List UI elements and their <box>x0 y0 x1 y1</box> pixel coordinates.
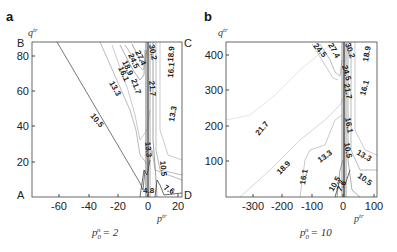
contour-label: 18.9 <box>361 45 373 62</box>
panel-b-xtick: 100 <box>365 200 383 212</box>
panel-a-caption: p0n= 2 <box>91 226 119 241</box>
panel-a-xtick: -40 <box>81 200 97 212</box>
contour-label: 16.1 <box>166 61 176 78</box>
panel-a-ytick: 60 <box>17 85 29 97</box>
contour-label: 16.1 <box>358 79 371 97</box>
panel-a-contour-labels: 30.2 27.4 24.5 18.9 16.1 21.7 13.3 21.7 … <box>88 44 178 197</box>
panel-b-ytick: 300 <box>205 84 223 96</box>
contour-label: 18.9 <box>275 159 293 177</box>
panel-a-ylabel: qtr <box>28 26 38 38</box>
contour-label: 4.8 <box>143 186 155 195</box>
contour-label: 13.3 <box>316 148 334 165</box>
contour-label: 10.5 <box>88 112 105 130</box>
contour-label: 13.3 <box>167 105 179 122</box>
panel-a-xtick: 0 <box>145 200 151 212</box>
contour-label: 24.5 <box>311 42 328 60</box>
contour-label: 21.7 <box>129 78 143 96</box>
panel-b-xtick: -300 <box>242 200 264 212</box>
panel-a-xlabel: ptr <box>156 212 167 224</box>
corner-label-a: A <box>17 189 25 201</box>
panel-a-xtick: -20 <box>110 200 126 212</box>
contour-label: 10.5 <box>356 171 374 188</box>
panel-b-contour-labels: 24.5 27.4 30.2 18.9 24.5 21.7 16.1 21.7 … <box>254 42 375 194</box>
panel-b-caption: p0n= 10 <box>299 226 332 241</box>
panel-b-xlabel: ptr <box>353 212 364 224</box>
panel-a: a qtr 80 60 <box>6 9 192 241</box>
panel-a-label: a <box>6 9 14 24</box>
panel-a-ytick: 20 <box>17 156 29 168</box>
contour-label: 13.3 <box>107 80 123 98</box>
panel-b-xtick: 0 <box>340 200 346 212</box>
contour-label: 10.5 <box>158 160 168 177</box>
panel-a-ytick: 80 <box>17 50 29 62</box>
contour-label: 18.9 <box>166 45 176 62</box>
contour-label: 13.3 <box>355 148 373 164</box>
contour-label: 21.7 <box>254 119 271 137</box>
contour-label: 16.1 <box>298 168 310 185</box>
panel-a-ytick: 40 <box>17 120 29 132</box>
panel-b-ytick: 200 <box>205 120 223 132</box>
panel-a-xtick: -60 <box>51 200 67 212</box>
panel-b-ytick: 100 <box>205 155 223 167</box>
corner-label-b: B <box>17 37 24 49</box>
contour-label: 13.3 <box>143 141 153 158</box>
corner-label-c: C <box>184 37 192 49</box>
panel-a-xtick: 20 <box>172 200 184 212</box>
panel-b-yticks: 400 300 200 100 <box>205 49 229 167</box>
corner-label-d: D <box>184 189 192 201</box>
panel-b-ylabel: qtr <box>218 26 228 38</box>
panel-b-xtick: -200 <box>271 200 293 212</box>
panel-b-label: b <box>204 9 212 24</box>
panel-b-ytick: 400 <box>205 49 223 61</box>
contour-label: 21.7 <box>147 80 157 97</box>
panel-b: b qtr 400 300 200 100 <box>204 9 383 241</box>
figure-canvas: a qtr 80 60 <box>0 0 397 252</box>
panel-b-xtick: -100 <box>301 200 323 212</box>
